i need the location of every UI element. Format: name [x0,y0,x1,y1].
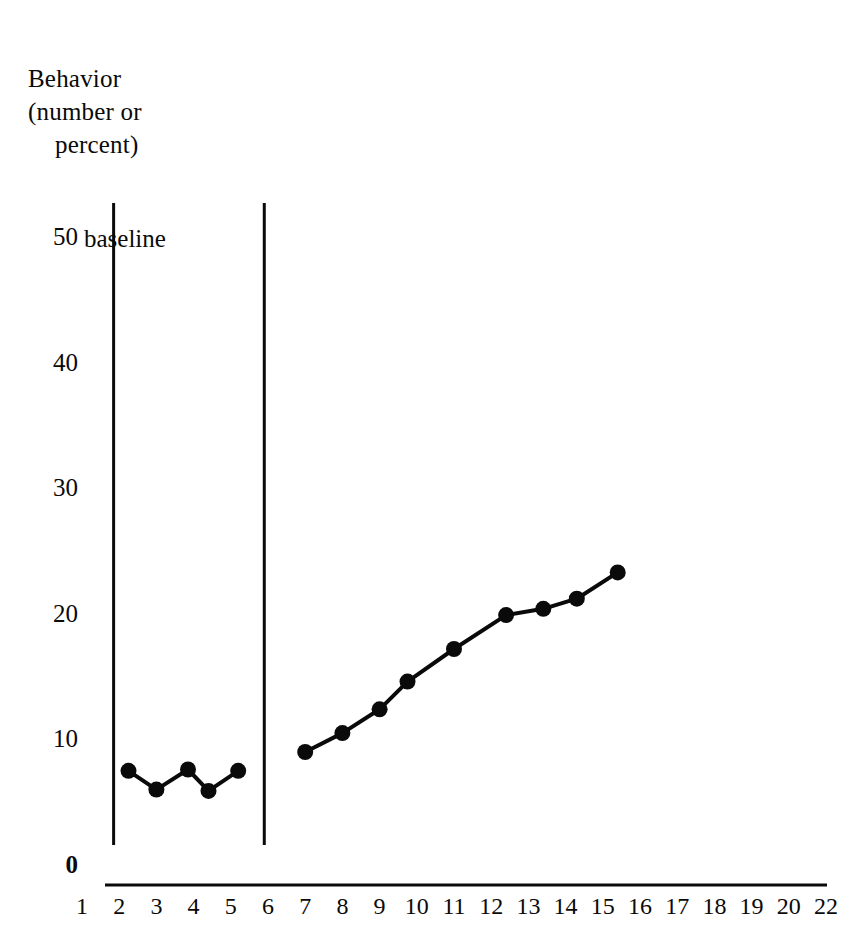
data-point-treatment-5 [446,641,462,657]
data-point-baseline-5 [230,763,246,779]
data-point-baseline-3 [180,762,196,778]
plot-area [0,0,861,936]
phase-change-lines [114,203,265,845]
data-point-baseline-1 [121,763,137,779]
data-series-layer [121,564,626,799]
data-point-treatment-8 [569,591,585,607]
series-baseline [121,762,247,799]
data-point-treatment-4 [400,674,416,690]
data-point-baseline-2 [148,782,164,798]
data-point-treatment-9 [610,564,626,580]
data-point-treatment-6 [498,607,514,623]
data-point-treatment-7 [535,601,551,617]
data-point-treatment-3 [372,701,388,717]
series-treatment [297,564,626,760]
data-point-baseline-4 [201,783,217,799]
data-point-treatment-2 [334,725,350,741]
behavior-chart: Behavior (number or percent) baseline 01… [0,0,861,936]
data-point-treatment-1 [297,744,313,760]
